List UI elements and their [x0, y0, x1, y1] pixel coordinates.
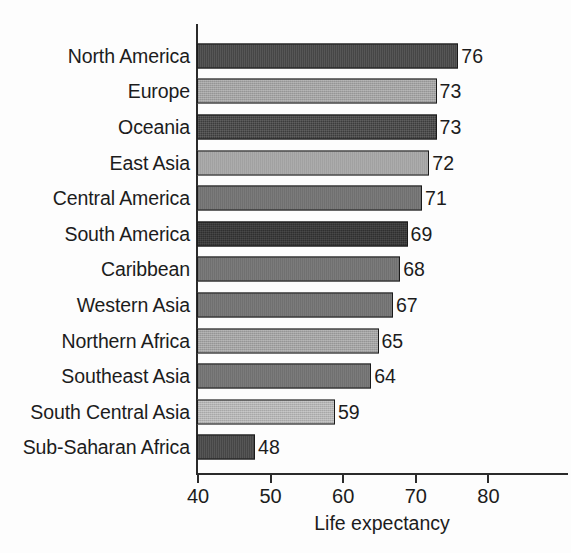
- bar-row: Caribbean68: [0, 252, 571, 288]
- bar-row: Europe73: [0, 74, 571, 110]
- bar-value-label: 67: [396, 293, 418, 316]
- bar-and-value: 67: [197, 292, 418, 317]
- bar-row: Sub-Saharan Africa48: [0, 430, 571, 466]
- bar-and-value: 69: [197, 221, 432, 246]
- bar: [197, 328, 379, 353]
- bar: [197, 221, 408, 246]
- bar-value-label: 72: [432, 151, 454, 174]
- bar-value-label: 73: [440, 80, 462, 103]
- category-label: Southeast Asia: [61, 365, 190, 388]
- bar-row: East Asia72: [0, 145, 571, 181]
- x-axis-title: Life expectancy: [196, 512, 568, 535]
- category-label: Western Asia: [77, 293, 190, 316]
- bar-value-label: 68: [403, 258, 425, 281]
- bar-value-label: 48: [258, 436, 280, 459]
- tick-mark: [487, 473, 489, 483]
- bar-value-label: 59: [338, 400, 360, 423]
- category-label: Central America: [53, 187, 190, 210]
- bar: [197, 186, 422, 211]
- bar-and-value: 65: [197, 328, 403, 353]
- bar-and-value: 76: [197, 43, 483, 68]
- tick-label: 70: [405, 485, 427, 508]
- bar: [197, 43, 458, 68]
- tick-mark: [342, 473, 344, 483]
- bar-row: Southeast Asia64: [0, 358, 571, 394]
- bar-row: South America69: [0, 216, 571, 252]
- category-label: South America: [64, 222, 190, 245]
- tick-label: 50: [259, 485, 281, 508]
- bar-and-value: 68: [197, 257, 425, 282]
- bar-row: Oceania73: [0, 109, 571, 145]
- bar-and-value: 73: [197, 79, 461, 104]
- tick-mark: [270, 473, 272, 483]
- tick-label: 80: [477, 485, 499, 508]
- bar-row: North America76: [0, 38, 571, 74]
- category-label: Sub-Saharan Africa: [23, 436, 190, 459]
- bar-and-value: 59: [197, 399, 360, 424]
- plot-area: North America76Europe73Oceania73East Asi…: [0, 0, 571, 553]
- bar-value-label: 71: [425, 187, 447, 210]
- bar-row: South Central Asia59: [0, 394, 571, 430]
- category-label: North America: [68, 44, 190, 67]
- x-axis-line: [196, 473, 568, 475]
- bar-and-value: 64: [197, 364, 396, 389]
- tick-mark: [197, 473, 199, 483]
- category-label: Caribbean: [101, 258, 190, 281]
- category-label: Oceania: [118, 115, 190, 138]
- tick-label: 40: [187, 485, 209, 508]
- tick-label: 60: [332, 485, 354, 508]
- category-label: Europe: [128, 80, 190, 103]
- life-expectancy-bar-chart: North America76Europe73Oceania73East Asi…: [0, 0, 571, 553]
- bar: [197, 364, 371, 389]
- bar: [197, 150, 429, 175]
- bar-value-label: 65: [382, 329, 404, 352]
- bar-and-value: 71: [197, 186, 447, 211]
- bar: [197, 79, 437, 104]
- bar: [197, 114, 437, 139]
- bar-value-label: 69: [411, 222, 433, 245]
- bar-row: Western Asia67: [0, 287, 571, 323]
- bar-rows: North America76Europe73Oceania73East Asi…: [0, 38, 571, 465]
- tick-mark: [415, 473, 417, 483]
- category-label: East Asia: [110, 151, 190, 174]
- bar: [197, 435, 255, 460]
- bar: [197, 257, 400, 282]
- bar-row: Northern Africa65: [0, 323, 571, 359]
- category-label: South Central Asia: [30, 400, 190, 423]
- bar-and-value: 72: [197, 150, 454, 175]
- bar: [197, 292, 393, 317]
- category-label: Northern Africa: [61, 329, 190, 352]
- bar-and-value: 48: [197, 435, 280, 460]
- bar-value-label: 73: [440, 115, 462, 138]
- bar-row: Central America71: [0, 180, 571, 216]
- bar-and-value: 73: [197, 114, 461, 139]
- bar-value-label: 76: [461, 44, 483, 67]
- bar: [197, 399, 335, 424]
- bar-value-label: 64: [374, 365, 396, 388]
